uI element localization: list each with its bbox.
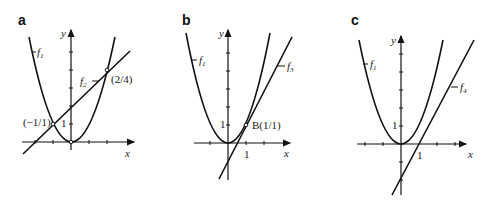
xtick-label-b: 1: [244, 149, 250, 160]
x-axis-label-a: x: [125, 148, 130, 159]
f2-line: [23, 51, 130, 154]
x-axis-label-c: x: [468, 149, 473, 160]
chart-canvas: [0, 0, 491, 203]
f3-label-b: f3: [287, 61, 294, 74]
panel-b-plot: [186, 30, 292, 180]
xtick-label-c: 1: [417, 150, 423, 161]
f1-label-b: f1: [199, 55, 206, 68]
f1-label-c: f1: [370, 59, 377, 72]
x-axis-label-b: x: [284, 148, 289, 159]
y-axis-label-b: y: [219, 28, 224, 39]
point-label-a1: (−1/1): [23, 117, 51, 128]
ytick-label-a: 1: [61, 118, 67, 129]
panel-label-a: a: [18, 12, 26, 28]
point-label-a2: (2/4): [111, 74, 132, 85]
y-axis-label-a: y: [61, 28, 66, 39]
ytick-label-b: 1: [220, 119, 226, 130]
f2-label-a: f2: [80, 76, 87, 89]
f4-label-c: f4: [460, 82, 467, 95]
ytick-label-c: 1: [392, 120, 398, 131]
panel-label-b: b: [182, 12, 191, 28]
y-axis-label-c: y: [391, 35, 396, 46]
f1-label-a: f1: [37, 47, 44, 60]
panel-label-c: c: [351, 12, 359, 28]
point-label-b: B(1/1): [252, 120, 281, 131]
